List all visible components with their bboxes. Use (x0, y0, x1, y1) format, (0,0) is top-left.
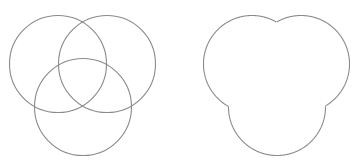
circle-3 (35, 59, 132, 156)
union-arc-1 (204, 16, 277, 107)
union-outline-shape (204, 16, 350, 156)
union-arc-2 (277, 16, 350, 106)
union-arc-3 (229, 106, 326, 155)
venn-three-circles (10, 16, 156, 156)
diagram-canvas (0, 0, 355, 168)
